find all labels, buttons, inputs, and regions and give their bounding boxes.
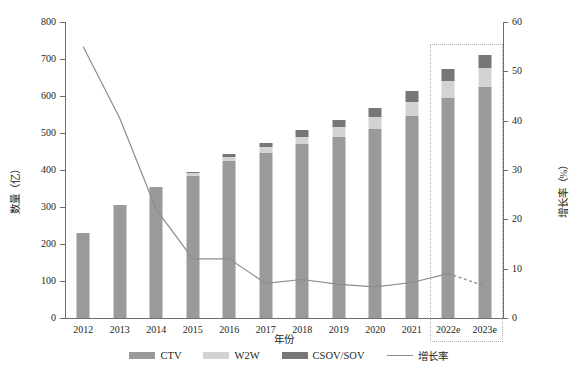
legend-color-swatch-icon <box>203 352 229 359</box>
x-axis-tick-label-2021: 2021 <box>402 324 422 335</box>
y-axis-left-tick-label: 600 <box>21 91 56 101</box>
y-axis-left-tick <box>60 318 65 319</box>
y-axis-right-tick <box>503 318 508 319</box>
y-axis-left-tick-label: 800 <box>21 17 56 27</box>
legend-line-swatch-icon <box>387 355 413 356</box>
stacked-bar-line-chart: 数量（亿） 增长率（%） 年份 010020030040050060070080… <box>0 0 577 378</box>
y-axis-right-tick-label: 50 <box>512 66 522 76</box>
y-axis-left-tick-label: 300 <box>21 202 56 212</box>
y-axis-left-tick-label: 400 <box>21 165 56 175</box>
x-axis-title: 年份 <box>274 331 294 346</box>
legend-item-ctv[interactable]: CTV <box>129 350 181 361</box>
y-axis-right-tick-label: 10 <box>512 264 522 274</box>
y-axis-right-title: 增长率（%） <box>555 160 570 219</box>
y-axis-right-tick <box>503 121 508 122</box>
x-axis-tick-label-2017: 2017 <box>256 324 276 335</box>
legend-color-swatch-icon <box>129 352 155 359</box>
legend-label: 增长率 <box>418 348 448 363</box>
legend-item-w2w[interactable]: W2W <box>203 350 259 361</box>
y-axis-right-tick-label: 0 <box>512 313 517 323</box>
y-axis-right-tick-label: 40 <box>512 116 522 126</box>
y-axis-right-tick <box>503 71 508 72</box>
x-axis-tick-label-2015: 2015 <box>183 324 203 335</box>
y-axis-right-tick-label: 60 <box>512 17 522 27</box>
x-axis-tick-label-2012: 2012 <box>73 324 93 335</box>
legend-item-增长率[interactable]: 增长率 <box>387 348 448 363</box>
plot-area: 0100200300400500600700800 0102030405060 <box>65 22 503 318</box>
y-axis-left-tick-label: 700 <box>21 54 56 64</box>
legend-item-csov-sov[interactable]: CSOV/SOV <box>282 350 365 361</box>
y-axis-left-tick-label: 500 <box>21 128 56 138</box>
y-axis-right-tick <box>503 170 508 171</box>
y-axis-left-tick-label: 0 <box>21 313 56 323</box>
y-axis-right-tick <box>503 219 508 220</box>
x-axis-tick-label-2018: 2018 <box>292 324 312 335</box>
y-axis-right-tick-label: 30 <box>512 165 522 175</box>
legend-label: CTV <box>160 350 181 361</box>
legend-label: CSOV/SOV <box>313 350 365 361</box>
y-axis-right-tick <box>503 22 508 23</box>
x-axis-tick-label-2020: 2020 <box>365 324 385 335</box>
legend-color-swatch-icon <box>282 352 308 359</box>
growth-rate-line <box>65 22 503 318</box>
legend-label: W2W <box>234 350 259 361</box>
x-axis-tick-label-2016: 2016 <box>219 324 239 335</box>
x-axis-tick-label-2013: 2013 <box>110 324 130 335</box>
y-axis-left-tick-label: 100 <box>21 276 56 286</box>
forecast-region-label-box <box>430 318 503 342</box>
x-axis-tick-label-2019: 2019 <box>329 324 349 335</box>
y-axis-left-tick-label: 200 <box>21 239 56 249</box>
x-axis-tick-label-2014: 2014 <box>146 324 166 335</box>
y-axis-right-tick-label: 20 <box>512 214 522 224</box>
y-axis-left-title: 数量（亿） <box>7 164 22 214</box>
y-axis-right-tick <box>503 269 508 270</box>
chart-legend: CTVW2WCSOV/SOV增长率 <box>0 348 577 363</box>
